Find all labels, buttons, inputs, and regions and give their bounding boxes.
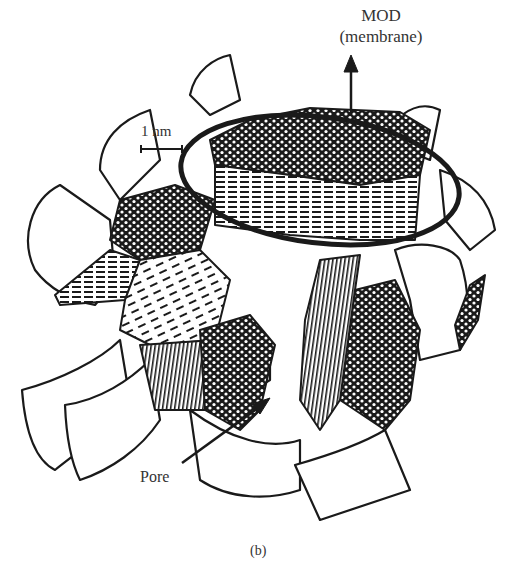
domain-dotted [110,185,215,260]
domain-dotted [200,315,275,430]
figure-panel: MOD (membrane) 1 nm Pore (b) [0,0,530,573]
membrane-label: (membrane) [321,27,441,47]
petal [440,170,495,250]
scale-bar-label: 1 nm [141,123,171,140]
petal [190,55,240,115]
mod-label: MOD [336,6,426,26]
protein-ring-drawing [0,0,530,573]
petal [295,430,410,520]
mod-arrow [344,55,358,112]
panel-caption: (b) [250,543,266,559]
pore-label: Pore [140,468,169,486]
